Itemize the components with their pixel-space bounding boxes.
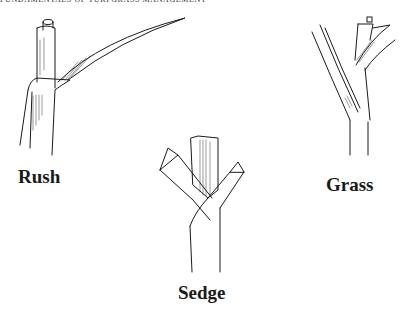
grass-illustration <box>0 0 404 315</box>
grass-label: Grass <box>326 174 374 196</box>
